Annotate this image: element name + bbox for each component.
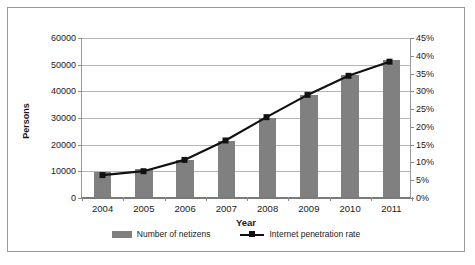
y-axis-left-tick-label: 0 <box>71 193 76 203</box>
x-axis-tick-label: 2010 <box>340 203 361 214</box>
y-axis-title: Persons <box>21 103 31 139</box>
y-axis-right-tick-label: 45% <box>416 33 434 43</box>
y2-axis-tick <box>410 91 414 92</box>
x-axis-tick <box>330 197 331 201</box>
y-axis-left-tick-label: 20000 <box>51 140 76 150</box>
x-axis-tick-label: 2006 <box>175 203 196 214</box>
y-axis-left-tick-label: 40000 <box>51 86 76 96</box>
line-marker <box>264 114 270 120</box>
y-axis-left-tick-label: 50000 <box>51 60 76 70</box>
legend-item-internet-penetration-rate: Internet penetration rate <box>240 229 360 239</box>
x-axis-tick <box>412 197 413 201</box>
y-axis-right-tick-label: 10% <box>416 157 434 167</box>
y-axis-left-tick-label: 10000 <box>51 166 76 176</box>
y-axis-right-tick-label: 20% <box>416 122 434 132</box>
y-axis-right-tick-label: 25% <box>416 104 434 114</box>
x-axis-tick-label: 2009 <box>298 203 319 214</box>
plot-area: 0100002000030000400005000060000 0%5%10%1… <box>81 38 411 198</box>
line-marker <box>223 137 229 143</box>
legend-label: Internet penetration rate <box>269 229 360 239</box>
y-axis-right-tick-label: 40% <box>416 51 434 61</box>
y-axis-right-tick-label: 5% <box>416 175 429 185</box>
y2-axis-tick <box>410 145 414 146</box>
y2-axis-tick <box>410 74 414 75</box>
x-axis-tick <box>247 197 248 201</box>
x-axis-tick-label: 2005 <box>133 203 154 214</box>
chart-legend: Number of netizens Internet penetration … <box>8 229 464 239</box>
y-axis-right-tick-label: 35% <box>416 69 434 79</box>
y-axis-right-tick-label: 30% <box>416 86 434 96</box>
y2-axis-tick <box>410 38 414 39</box>
line-series-internet-penetration-rate <box>82 38 410 197</box>
gridline <box>82 198 410 199</box>
x-axis-tick-label: 2004 <box>92 203 113 214</box>
y2-axis-tick <box>410 180 414 181</box>
x-axis-tick <box>165 197 166 201</box>
x-axis-tick <box>82 197 83 201</box>
x-axis-title: Year <box>81 217 411 228</box>
y2-axis-tick <box>410 162 414 163</box>
chart-figure: Persons Year 010000200003000040000500006… <box>7 7 465 252</box>
x-axis-tick <box>206 197 207 201</box>
line-marker <box>305 92 311 98</box>
y-axis-left-tick-label: 30000 <box>51 113 76 123</box>
x-axis-tick <box>288 197 289 201</box>
y-axis-right-tick-label: 0% <box>416 193 429 203</box>
line-marker <box>141 168 147 174</box>
legend-item-number-of-netizens: Number of netizens <box>112 229 211 239</box>
y2-axis-tick <box>410 109 414 110</box>
x-axis-tick-label: 2007 <box>216 203 237 214</box>
y-axis-left-tick-label: 60000 <box>51 33 76 43</box>
x-axis-tick-label: 2008 <box>257 203 278 214</box>
line-marker <box>100 172 106 178</box>
bar-swatch-icon <box>112 231 132 238</box>
y2-axis-tick <box>410 56 414 57</box>
line-marker <box>387 59 393 65</box>
legend-label: Number of netizens <box>137 229 211 239</box>
line-marker <box>182 157 188 163</box>
x-axis-tick <box>371 197 372 201</box>
x-axis-tick <box>123 197 124 201</box>
x-axis-tick-label: 2011 <box>381 203 401 214</box>
y-axis-right-tick-label: 15% <box>416 140 434 150</box>
line-marker-swatch-icon <box>240 230 264 239</box>
line-marker <box>346 73 352 79</box>
y2-axis-tick <box>410 127 414 128</box>
